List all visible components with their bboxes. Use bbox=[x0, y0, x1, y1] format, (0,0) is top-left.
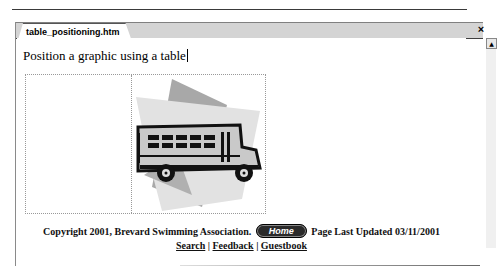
page-heading: Position a graphic using a table bbox=[23, 48, 188, 64]
feedback-link[interactable]: Feedback bbox=[213, 240, 254, 251]
footer-links: Search | Feedback | Guestbook bbox=[17, 240, 466, 251]
link-separator: | bbox=[208, 240, 210, 251]
text-cursor bbox=[187, 49, 188, 62]
link-separator: | bbox=[256, 240, 258, 251]
last-updated-text: Page Last Updated 03/11/2001 bbox=[311, 226, 440, 237]
layout-table bbox=[25, 74, 266, 214]
school-bus-icon[interactable] bbox=[132, 75, 265, 213]
footer-info: Copyright 2001, Brevard Swimming Associa… bbox=[17, 224, 466, 238]
heading-text: Position a graphic using a table bbox=[23, 48, 186, 63]
search-link[interactable]: Search bbox=[176, 240, 205, 251]
vertical-scrollbar[interactable]: ▲ bbox=[486, 38, 496, 248]
bottom-divider bbox=[180, 265, 480, 266]
scroll-up-arrow-icon[interactable]: ▲ bbox=[486, 38, 497, 49]
close-icon[interactable]: × bbox=[475, 23, 487, 35]
home-button[interactable]: Home bbox=[256, 224, 307, 238]
editor-content[interactable]: Position a graphic using a table bbox=[17, 38, 466, 266]
document-window: table_positioning.htm × Position a graph… bbox=[15, 22, 483, 266]
table-cell-left[interactable] bbox=[26, 75, 132, 213]
guestbook-link[interactable]: Guestbook bbox=[261, 240, 307, 251]
document-tab-bar: table_positioning.htm × bbox=[16, 22, 483, 39]
table-cell-right[interactable] bbox=[132, 75, 265, 213]
copyright-text: Copyright 2001, Brevard Swimming Associa… bbox=[43, 226, 251, 237]
top-divider bbox=[12, 9, 467, 10]
